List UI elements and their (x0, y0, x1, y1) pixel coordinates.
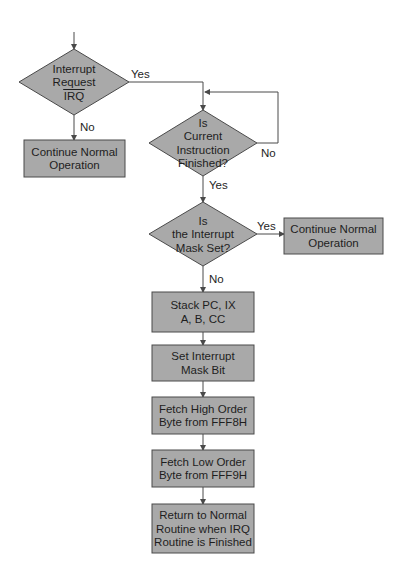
node-label-line: Operation (308, 237, 359, 249)
node-label-line: Byte from FFF8H (159, 416, 247, 428)
edge-label-no: No (209, 273, 224, 285)
node-label-line: Current (184, 130, 223, 142)
process-fetch-high: Fetch High OrderByte from FFF8H (152, 397, 254, 434)
node-label-line: Is (199, 215, 208, 227)
node-label-line: IRQ (64, 90, 85, 102)
node-label-line: Fetch High Order (159, 403, 247, 415)
node-label-line: Request (53, 76, 97, 88)
node-label-line: Mask Bit (181, 364, 226, 376)
decision-irq: InterruptRequestIRQ (19, 49, 129, 115)
node-label-line: Interrupt (53, 63, 97, 75)
process-return: Return to NormalRoutine when IRQRoutine … (152, 504, 254, 553)
node-label-line: Byte from FFF9H (159, 469, 247, 481)
node-label-line: Set Interrupt (171, 350, 235, 362)
process-continue2: Continue NormalOperation (284, 218, 383, 254)
decision-mask-set: Isthe InterruptMask Set? (149, 202, 257, 266)
decision-instr-finished: IsCurrentInstructionFinished? (149, 110, 257, 176)
edge-label-no: No (261, 147, 276, 159)
edge-label-no: No (80, 121, 95, 133)
node-label-line: Routine is Finished (154, 536, 252, 548)
node-label-line: Fetch Low Order (160, 456, 246, 468)
node-label-line: A, B, CC (181, 313, 226, 325)
process-set-mask: Set InterruptMask Bit (152, 345, 254, 381)
node-label-line: Stack PC, IX (170, 299, 236, 311)
node-label-line: Continue Normal (290, 223, 376, 235)
node-label-line: Mask Set? (176, 242, 230, 254)
interrupt-flowchart: InterruptRequestIRQContinue NormalOperat… (0, 0, 401, 569)
process-continue1: Continue NormalOperation (24, 140, 125, 177)
node-label-line: Finished? (178, 157, 228, 169)
edge-label-yes: Yes (209, 179, 228, 191)
node-label-line: Routine when IRQ (156, 523, 250, 535)
node-label-line: Instruction (176, 144, 229, 156)
node-label-line: the Interrupt (172, 228, 235, 240)
node-label-line: Return to Normal (159, 509, 247, 521)
process-stack: Stack PC, IXA, B, CC (152, 292, 254, 332)
node-label-line: Continue Normal (31, 146, 117, 158)
process-fetch-low: Fetch Low OrderByte from FFF9H (152, 450, 254, 487)
edge-label-yes: Yes (257, 220, 276, 232)
node-label-line: Is (199, 117, 208, 129)
connector-irq-yes (129, 82, 203, 110)
edge-label-yes: Yes (131, 68, 150, 80)
node-label-line: Operation (49, 159, 100, 171)
